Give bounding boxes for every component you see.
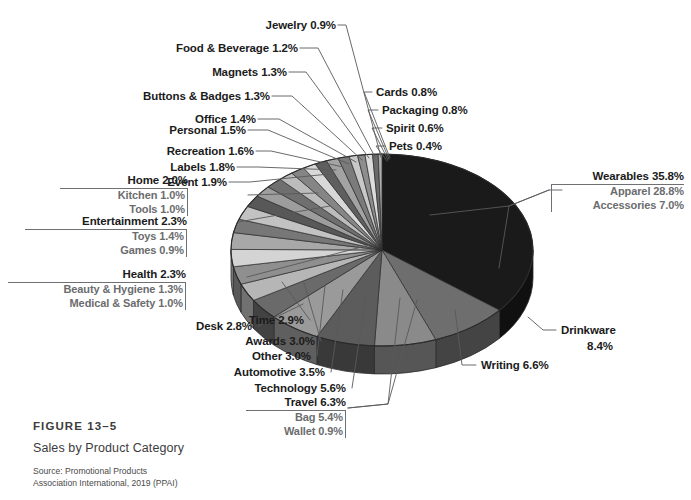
group-wearables: Wearables 35.8% Apparel 28.8% Accessorie…: [551, 170, 684, 212]
group-travel-subs: Bag 5.4% Wallet 0.9%: [246, 411, 346, 438]
group-entertainment-head: Entertainment 2.3%: [25, 215, 187, 229]
label-writing: Writing 6.6%: [481, 359, 549, 372]
group-health-subs: Beauty & Hygiene 1.3% Medical & Safety 1…: [8, 283, 186, 310]
group-travel: Travel 6.3% Bag 5.4% Wallet 0.9%: [246, 396, 346, 438]
label-other: Other 3.0%: [190, 350, 311, 363]
label-labels: Labels 1.8%: [110, 161, 235, 174]
group-wearables-sub-0: Apparel 28.8%: [555, 185, 684, 199]
label-buttons-badges: Buttons & Badges 1.3%: [90, 90, 270, 103]
label-drinkware-value: 8.4%: [561, 340, 639, 353]
group-travel-sub-0: Bag 5.4%: [246, 411, 343, 425]
label-automotive: Automotive 3.5%: [165, 366, 325, 379]
group-entertainment-sub-0: Toys 1.4%: [25, 230, 184, 244]
figure-number: FIGURE 13–5: [33, 420, 184, 432]
group-health-sub-0: Beauty & Hygiene 1.3%: [8, 283, 183, 297]
group-health: Health 2.3% Beauty & Hygiene 1.3% Medica…: [8, 268, 186, 310]
figure-source-line-1: Source: Promotional Products: [33, 466, 184, 478]
figure-canvas: Jewelry 0.9% Food & Beverage 1.2% Magnet…: [0, 0, 691, 500]
group-entertainment: Entertainment 2.3% Toys 1.4% Games 0.9%: [25, 215, 187, 257]
group-home-subs: Kitchen 1.0% Tools 1.0%: [60, 189, 188, 216]
label-jewelry: Jewelry 0.9%: [178, 19, 336, 32]
label-spirit: Spirit 0.6%: [386, 122, 444, 135]
figure-source: Source: Promotional Products Association…: [33, 466, 184, 489]
label-food-beverage: Food & Beverage 1.2%: [120, 42, 298, 55]
group-health-head: Health 2.3%: [8, 268, 186, 282]
label-technology: Technology 5.6%: [180, 382, 346, 395]
figure-source-line-2: Association International, 2019 (PPAI): [33, 478, 184, 490]
group-home-sub-1: Tools 1.0%: [60, 203, 185, 217]
label-cards: Cards 0.8%: [376, 86, 437, 99]
label-packaging: Packaging 0.8%: [382, 104, 468, 117]
label-drinkware-name: Drinkware: [561, 324, 616, 337]
label-pets: Pets 0.4%: [389, 140, 442, 153]
group-wearables-sub-1: Accessories 7.0%: [555, 199, 684, 213]
label-time: Time 2.9%: [190, 314, 304, 327]
group-wearables-head: Wearables 35.8%: [551, 170, 684, 184]
label-recreation: Recreation 1.6%: [110, 145, 254, 158]
group-travel-head: Travel 6.3%: [246, 396, 346, 410]
group-home-head: Home 2.0%: [60, 174, 188, 188]
group-health-sub-1: Medical & Safety 1.0%: [8, 297, 183, 311]
group-wearables-subs: Apparel 28.8% Accessories 7.0%: [551, 185, 684, 212]
group-entertainment-sub-1: Games 0.9%: [25, 244, 184, 258]
group-home-sub-0: Kitchen 1.0%: [60, 189, 185, 203]
figure-caption: FIGURE 13–5 Sales by Product Category So…: [33, 420, 184, 489]
figure-title: Sales by Product Category: [33, 441, 184, 455]
label-awards: Awards 3.0%: [190, 335, 315, 348]
label-personal: Personal 1.5%: [100, 124, 246, 137]
group-entertainment-subs: Toys 1.4% Games 0.9%: [25, 230, 187, 257]
group-home: Home 2.0% Kitchen 1.0% Tools 1.0%: [60, 174, 188, 216]
label-magnets: Magnets 1.3%: [120, 66, 287, 79]
group-travel-sub-1: Wallet 0.9%: [246, 425, 343, 439]
